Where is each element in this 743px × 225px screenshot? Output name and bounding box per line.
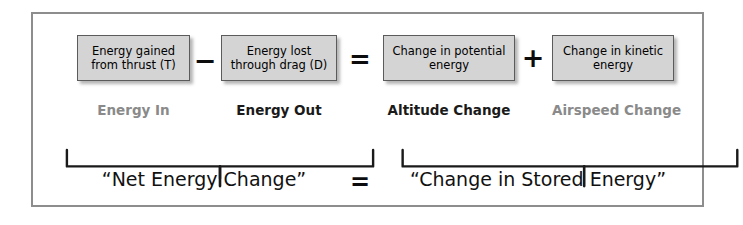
box-change-in-potential-energy: Change in potential energy — [383, 35, 515, 81]
label-airspeed-change: Airspeed Change — [552, 102, 674, 118]
minus-operator: − — [192, 47, 218, 74]
plus-operator: + — [518, 44, 548, 71]
diagram-panel: Energy gained from thrust (T) Energy los… — [31, 12, 704, 207]
equals-operator-bottom: = — [343, 170, 377, 194]
box-energy-lost-through-drag: Energy lost through drag (D) — [221, 35, 337, 81]
equals-operator: = — [343, 46, 377, 72]
label-energy-in: Energy In — [77, 102, 190, 118]
box-change-in-kinetic-energy: Change in kinetic energy — [552, 35, 674, 81]
box-potential-label: Change in potential energy — [393, 44, 506, 72]
label-energy-out: Energy Out — [221, 102, 337, 118]
summary-change-in-stored-energy: “Change in Stored Energy” — [392, 168, 684, 190]
summary-net-energy-change: “Net Energy Change” — [64, 168, 344, 190]
right-brace — [403, 150, 738, 166]
box-thrust-label: Energy gained from thrust (T) — [91, 44, 175, 72]
box-energy-gained-from-thrust: Energy gained from thrust (T) — [77, 35, 190, 81]
label-altitude-change: Altitude Change — [383, 102, 515, 118]
box-drag-label: Energy lost through drag (D) — [231, 44, 328, 72]
box-kinetic-label: Change in kinetic energy — [563, 44, 663, 72]
